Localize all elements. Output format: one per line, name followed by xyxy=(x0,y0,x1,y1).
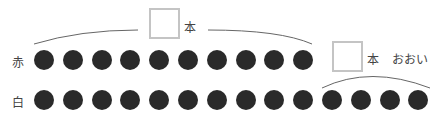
dot xyxy=(207,50,227,70)
diagram-canvas: 本 本 おおい 赤 白 xyxy=(0,0,442,120)
row-label-red: 赤 xyxy=(12,53,24,70)
dot xyxy=(63,90,83,110)
unit-label-top: 本 xyxy=(184,18,196,35)
dot xyxy=(207,90,227,110)
dot xyxy=(92,50,112,70)
dot xyxy=(178,90,198,110)
dot xyxy=(92,90,112,110)
row-label-white: 白 xyxy=(12,93,24,110)
unit-label-right: 本 xyxy=(367,50,379,67)
dot xyxy=(380,90,400,110)
dot xyxy=(178,50,198,70)
more-note: おおい xyxy=(392,50,428,67)
dot xyxy=(34,50,54,70)
dot xyxy=(63,50,83,70)
dot xyxy=(236,50,256,70)
answer-box-top[interactable] xyxy=(149,8,180,39)
dot xyxy=(34,90,54,110)
dot xyxy=(351,90,371,110)
dot xyxy=(322,90,342,110)
answer-box-right[interactable] xyxy=(332,41,363,72)
dot xyxy=(236,90,256,110)
